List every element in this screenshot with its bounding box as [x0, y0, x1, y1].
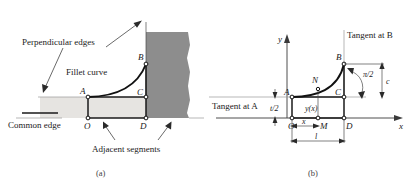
point-d-node	[144, 116, 148, 120]
point-m-node	[316, 116, 320, 120]
dimension-c-arrow-top	[379, 62, 384, 69]
leader-perpendicular-upper	[106, 22, 140, 47]
label-point-n: N	[311, 75, 319, 85]
label-function-yx: y(x)	[304, 104, 318, 113]
label-dimension-t-half: t/2	[270, 104, 278, 113]
label-point-c-b: C	[335, 87, 342, 97]
dimension-l-arrow-right	[339, 139, 346, 144]
figure-container: A B C D O Perpendicular edges Fillet cur…	[0, 0, 418, 188]
fillet-fill-region	[88, 97, 146, 118]
label-point-b: B	[138, 52, 144, 62]
label-fillet-curve: Fillet curve	[66, 67, 107, 77]
dimension-t-arrow-top	[273, 92, 278, 99]
point-b-node	[144, 62, 148, 66]
label-tangent-at-a: Tangent at A	[212, 101, 258, 111]
label-tangent-at-b: Tangent at B	[347, 30, 393, 40]
dimension-c-arrow-bottom	[379, 92, 384, 99]
point-a-node	[86, 95, 90, 99]
arrowhead-perpendicular-upper	[134, 21, 143, 28]
label-point-a: A	[79, 86, 86, 96]
label-common-edge: Common edge	[8, 120, 61, 130]
point-n-node	[316, 87, 319, 90]
dark-block-region	[146, 32, 190, 118]
panel-b: y x Tangent at A Tangent at B A B C D	[209, 30, 403, 178]
figure-svg: A B C D O Perpendicular edges Fillet cur…	[0, 0, 418, 188]
angle-arc	[350, 71, 363, 95]
point-a-node-b	[290, 95, 294, 99]
label-point-m: M	[319, 121, 328, 131]
label-angle-pi-half: π/2	[363, 70, 373, 79]
label-dimension-c: c	[386, 77, 390, 86]
label-point-o: O	[84, 121, 91, 131]
caption-panel-b: (b)	[308, 168, 318, 178]
light-block-region	[40, 97, 88, 118]
y-axis-arrowhead	[284, 34, 290, 43]
label-dimension-x: x	[301, 117, 306, 126]
label-adjacent-segments: Adjacent segments	[92, 144, 161, 154]
dimension-x-arrow-right	[313, 124, 320, 129]
point-o-node	[86, 116, 90, 120]
label-y-axis: y	[277, 34, 282, 44]
point-d-node-b	[342, 116, 346, 120]
label-point-b-b: B	[336, 52, 342, 62]
label-point-d-b: D	[345, 121, 353, 131]
angle-arrowhead-end	[358, 91, 365, 99]
angle-arrowhead-start	[347, 68, 354, 75]
dimension-t-arrow-bottom	[273, 116, 278, 123]
point-c-node	[144, 95, 148, 99]
point-c-node-b	[342, 95, 346, 99]
label-point-d: D	[139, 121, 147, 131]
label-dimension-l: l	[315, 132, 318, 141]
label-point-c: C	[137, 87, 144, 97]
panel-a: A B C D O Perpendicular edges Fillet cur…	[8, 21, 204, 179]
leader-perpendicular-lower	[44, 48, 63, 90]
arrowhead-adjacent-right	[165, 122, 172, 130]
label-x-axis: x	[398, 121, 403, 131]
arrowhead-adjacent-left	[103, 122, 109, 130]
dimension-l-arrow-left	[290, 139, 297, 144]
caption-panel-a: (a)	[96, 168, 106, 178]
point-o-node-b	[290, 116, 294, 120]
label-point-a-b: A	[283, 87, 290, 97]
label-perpendicular-edges: Perpendicular edges	[22, 37, 95, 47]
arrowhead-perpendicular-lower	[42, 84, 49, 93]
